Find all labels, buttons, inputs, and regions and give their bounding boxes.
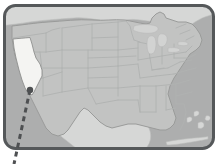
map-svg xyxy=(0,0,218,164)
lake-erie xyxy=(168,48,180,53)
pointer-dot xyxy=(27,87,33,93)
lake-superior xyxy=(133,25,158,34)
us-map-state-locator xyxy=(0,0,218,164)
region-bahamas-4 xyxy=(205,116,210,121)
map-contents xyxy=(0,0,218,164)
lake-ontario xyxy=(178,42,188,46)
region-bahamas-3 xyxy=(198,122,204,128)
lake-michigan xyxy=(147,36,156,54)
